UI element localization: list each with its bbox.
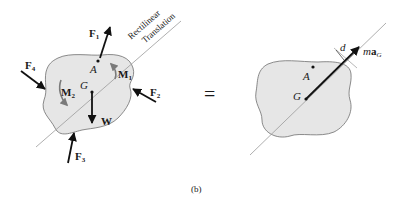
- distance-d-label: d: [340, 41, 346, 53]
- force-f1-label: F1: [89, 27, 100, 41]
- force-f4-arrow: [21, 71, 45, 89]
- force-f3-label: F3: [75, 150, 86, 164]
- force-f1-arrow: [100, 27, 110, 58]
- point-a-dot: [96, 59, 99, 62]
- weight-label: W: [101, 115, 112, 127]
- inertia-vector-label: maG: [363, 45, 382, 59]
- figure-caption: (b): [191, 184, 202, 194]
- point-g-label: G: [80, 79, 88, 91]
- translation-label: Rectilinear Translation: [126, 1, 178, 50]
- kinetic-diagram: d A G maG: [250, 23, 386, 155]
- point-a-label: A: [302, 70, 310, 82]
- point-a-label: A: [89, 63, 97, 75]
- rigid-body-shape: [43, 55, 134, 134]
- figure: Rectilinear Translation A G F1 F4 F2 F3 …: [0, 0, 401, 203]
- force-f3-arrow: [68, 133, 74, 163]
- force-f4-label: F4: [25, 59, 36, 73]
- force-f2-label: F2: [150, 86, 161, 100]
- point-a-dot: [311, 65, 314, 68]
- free-body-diagram: Rectilinear Translation A G F1 F4 F2 F3 …: [21, 1, 181, 164]
- point-g-label: G: [293, 90, 301, 102]
- equals-sign: =: [204, 83, 215, 105]
